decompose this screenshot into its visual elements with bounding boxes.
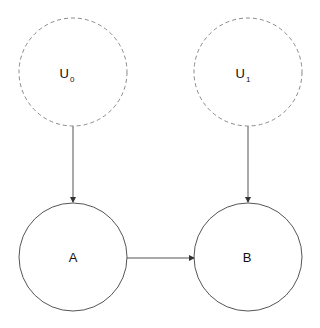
node-u0: U0 <box>19 18 127 126</box>
node-a-label: A <box>69 250 78 265</box>
causal-diagram: U0 U1 A B <box>0 0 320 328</box>
node-u1: U1 <box>194 18 302 126</box>
node-u0-label: U0 <box>60 66 75 84</box>
node-a: A <box>19 203 127 311</box>
node-b-label: B <box>243 250 252 265</box>
node-u1-label: U1 <box>236 66 251 84</box>
node-b: B <box>194 203 302 311</box>
